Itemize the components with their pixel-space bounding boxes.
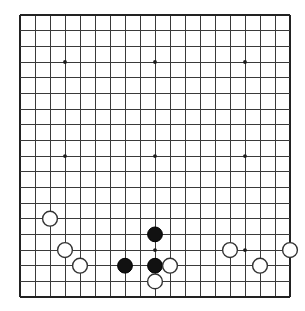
- star-point-16-10: [243, 154, 247, 158]
- white-stone-r17[interactable]: [253, 258, 268, 273]
- star-point-4-4: [63, 60, 67, 64]
- star-point-16-4: [243, 60, 247, 64]
- star-point-16-16: [243, 248, 247, 252]
- black-stone-j15[interactable]: [148, 227, 163, 242]
- white-stone-d16[interactable]: [58, 243, 73, 258]
- star-point-4-10: [63, 154, 67, 158]
- go-board-container: [0, 0, 305, 311]
- star-point-10-4: [153, 60, 157, 64]
- white-stone-j18[interactable]: [148, 274, 163, 289]
- white-stone-e17[interactable]: [73, 258, 88, 273]
- star-point-10-10: [153, 154, 157, 158]
- black-stone-j17[interactable]: [148, 258, 163, 273]
- white-stone-p16[interactable]: [223, 243, 238, 258]
- star-point-10-16: [153, 248, 157, 252]
- black-stone-h17[interactable]: [118, 258, 133, 273]
- white-stone-c14[interactable]: [43, 211, 58, 226]
- white-stone-t16[interactable]: [283, 243, 298, 258]
- white-stone-k17[interactable]: [163, 258, 178, 273]
- go-board-grid[interactable]: [0, 0, 305, 311]
